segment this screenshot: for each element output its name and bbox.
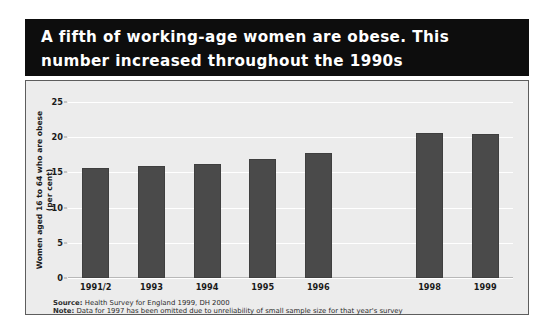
y-axis-tick-mark	[64, 172, 67, 173]
bar-slot: 1994	[179, 102, 235, 278]
footnote-source-prefix: Source:	[53, 299, 83, 307]
bar	[472, 134, 499, 278]
bar	[194, 164, 221, 278]
y-axis-tick-label: 20	[52, 132, 63, 142]
y-axis-tick-label: 5	[57, 238, 63, 248]
chart-title: A fifth of working-age women are obese. …	[41, 25, 513, 73]
bar-slot: 1991/2	[68, 102, 124, 278]
y-axis-tick-label: 15	[52, 167, 63, 177]
bar	[249, 159, 276, 278]
chart-title-band: A fifth of working-age women are obese. …	[25, 19, 529, 76]
x-axis-tick-label: 1998	[418, 282, 441, 292]
bar	[305, 153, 332, 278]
footnote-source: Source: Health Survey for England 1999, …	[53, 299, 523, 307]
y-axis-tick-mark	[64, 278, 67, 279]
footnote-source-text: Health Survey for England 1999, DH 2000	[83, 299, 230, 307]
footnote-note: Note: Data for 1997 has been omitted due…	[53, 307, 523, 315]
y-axis-tick-label: 10	[52, 203, 63, 213]
y-axis-tick-mark	[64, 102, 67, 103]
x-axis-tick-label: 1994	[196, 282, 219, 292]
gridline	[68, 278, 513, 279]
footnote-note-text: Data for 1997 has been omitted due to un…	[74, 307, 402, 315]
bar-slot: 1993	[124, 102, 180, 278]
bar-slot	[346, 102, 402, 278]
footnotes: Source: Health Survey for England 1999, …	[53, 299, 523, 316]
y-axis-tick-label: 25	[52, 97, 63, 107]
x-axis-tick-label: 1993	[140, 282, 163, 292]
x-axis-tick-label: 1991/2	[80, 282, 111, 292]
bar	[82, 168, 109, 278]
footnote-note-prefix: Note:	[53, 307, 74, 315]
y-axis-tick-mark	[64, 207, 67, 208]
y-axis-tick-label: 0	[57, 273, 63, 283]
plot-area: 0510152025 1991/219931994199519961998199…	[68, 102, 513, 278]
bar-slot: 1995	[235, 102, 291, 278]
x-axis-tick-label: 1999	[474, 282, 497, 292]
y-axis-title: Women aged 16 to 64 who are obese (per c…	[34, 102, 56, 278]
x-axis-tick-label: 1996	[307, 282, 330, 292]
x-axis-tick-label: 1995	[251, 282, 274, 292]
chart-panel: Women aged 16 to 64 who are obese (per c…	[25, 80, 529, 315]
bar	[138, 166, 165, 278]
bar-slot: 1996	[291, 102, 347, 278]
bar-slot: 1998	[402, 102, 458, 278]
bar	[416, 133, 443, 278]
chart-figure: A fifth of working-age women are obese. …	[0, 0, 551, 329]
bar-series: 1991/2199319941995199619981999	[68, 102, 513, 278]
bar-slot: 1999	[457, 102, 513, 278]
y-axis-tick-mark	[64, 242, 67, 243]
y-axis-tick-mark	[64, 137, 67, 138]
